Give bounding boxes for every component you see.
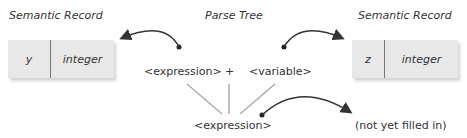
right-record-title: Semantic Record [358,9,452,22]
unfilled-note: (not yet filled in) [355,119,447,132]
left-record-title: Semantic Record [9,9,103,22]
left-record-type: integer [50,40,114,78]
tree-node-operator: + [225,65,234,78]
right-pointer-arrow [284,31,342,47]
right-semantic-record: z integer [352,40,458,78]
tree-edge-left [187,84,222,114]
right-record-name: z [352,40,384,78]
tree-node-expression-left: <expression> [144,65,222,78]
tree-node-variable: <variable> [249,65,312,78]
left-semantic-record: y integer [8,40,114,78]
left-record-name: y [8,40,50,78]
right-record-type: integer [384,40,458,78]
parse-tree-title: Parse Tree [205,9,263,22]
left-pointer-arrow [122,31,179,47]
tree-node-expression-root: <expression> [194,119,272,132]
root-pointer-arrow [262,97,350,115]
